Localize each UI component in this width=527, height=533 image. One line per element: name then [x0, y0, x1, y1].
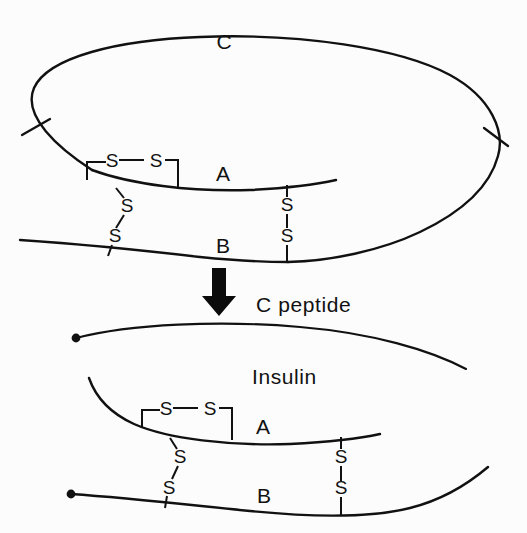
sulfur-glyph-intrachain-left-bottom: S [160, 398, 173, 419]
intrachain-disulfide-bar-right-top [165, 160, 178, 188]
label-insulin: Insulin [252, 365, 317, 388]
label-b-chain-top: B [216, 234, 230, 257]
intrachain-disulfide-bar-right-bottom [219, 408, 232, 440]
c-peptide-n-terminus-dot [72, 334, 81, 343]
a-chain-path-top [92, 170, 336, 190]
sulfur-glyph-bond2-upper-bottom: S [335, 446, 348, 467]
a-chain-path-bottom [89, 378, 380, 444]
sulfur-glyph-bond1-upper-bottom: S [174, 446, 187, 467]
label-c-peptide: C peptide [256, 293, 351, 316]
sulfur-glyph-intrachain-left-top: S [106, 150, 119, 171]
c-peptide-loop-path [32, 36, 500, 262]
b-chain-path-bottom [71, 467, 488, 516]
proinsulin-insulin-diagram: S S S S S S C A B [0, 0, 527, 533]
intrachain-disulfide-bracket-bottom [142, 410, 160, 427]
b-chain-path-top [20, 240, 288, 262]
conversion-arrow [202, 268, 236, 316]
diagram-canvas: S S S S S S C A B [0, 0, 527, 533]
sulfur-glyph-bond2-lower-top: S [281, 225, 294, 246]
sulfur-glyph-bond2-upper-top: S [281, 194, 294, 215]
conversion-arrow-icon [202, 268, 236, 316]
sulfur-glyph-bond2-lower-bottom: S [335, 477, 348, 498]
sulfur-glyph-intrachain-right-top: S [150, 150, 163, 171]
label-a-chain-top: A [216, 162, 230, 185]
sulfur-glyph-bond1-lower-bottom: S [163, 477, 176, 498]
b-chain-n-terminus-dot [67, 490, 76, 499]
cleavage-tick-right-icon [484, 128, 508, 146]
label-a-chain-bottom: A [256, 415, 270, 438]
label-c-chain-top: C [216, 30, 231, 53]
label-b-chain-bottom: B [257, 484, 271, 507]
sulfur-glyph-bond1-lower-top: S [109, 225, 122, 246]
proinsulin-panel: S S S S S S C A B [20, 30, 508, 263]
sulfur-glyph-intrachain-right-bottom: S [204, 398, 217, 419]
products-panel: S S S S S S C peptide Insulin A B [67, 293, 488, 516]
c-peptide-chain-path [76, 324, 466, 369]
sulfur-glyph-bond1-upper-top: S [121, 195, 134, 216]
